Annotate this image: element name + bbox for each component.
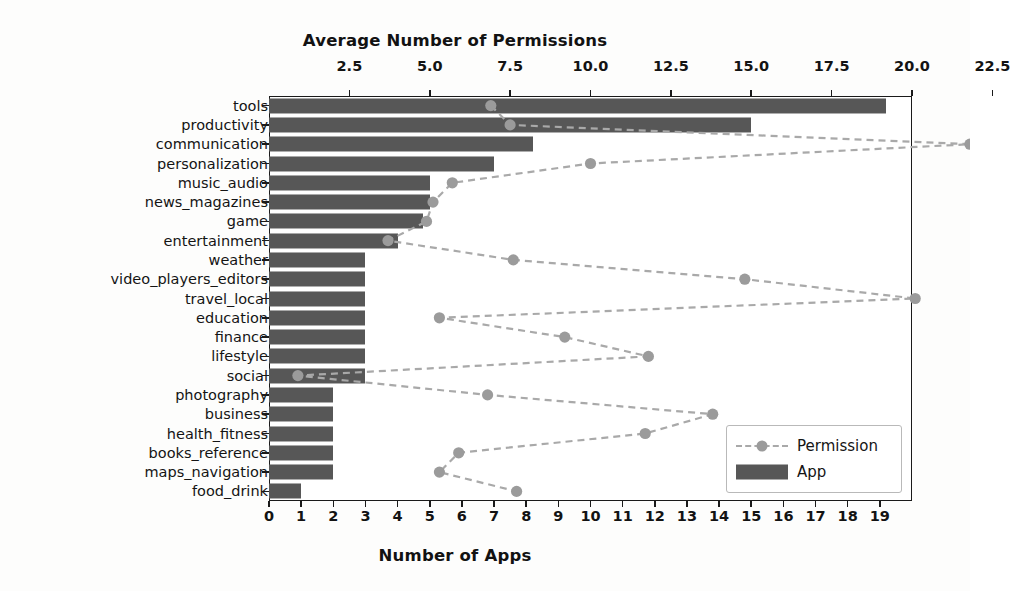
bar-productivity [269,117,751,132]
tick-mark-bottom [429,501,431,507]
tick-mark-top [911,90,913,96]
tick-label-bottom: 6 [457,508,467,524]
tick-label-top: 12.5 [653,58,689,74]
tick-mark-top [509,90,511,96]
tick-mark-left [262,375,269,377]
tick-label-bottom: 14 [709,508,729,524]
bar-books_reference [269,445,333,460]
category-label: travel_local [185,291,268,307]
tick-mark-bottom [590,501,592,507]
legend-label-app: App [797,463,826,481]
tick-label-top: 7.5 [497,58,523,74]
tick-label-bottom: 5 [425,508,435,524]
bar-personalization [269,156,494,171]
category-label: photography [175,387,268,403]
tick-label-bottom: 12 [645,508,665,524]
category-label: education [196,310,268,326]
category-label: entertainment [164,233,268,249]
bar-education [269,310,365,325]
tick-mark-left [262,124,269,126]
chart-legend: Permission App [726,425,902,493]
tick-mark-bottom [622,501,624,507]
tick-mark-bottom [493,501,495,507]
tick-mark-bottom [333,501,335,507]
tick-label-top: 20.0 [894,58,930,74]
tick-mark-top [429,90,431,96]
bar-social [269,368,365,383]
bar-tools [269,98,886,113]
tick-label-top: 17.5 [814,58,850,74]
category-label: news_magazines [145,194,268,210]
tick-label-bottom: 7 [489,508,499,524]
category-label: books_reference [149,445,268,461]
bar-maps_navigation [269,465,333,480]
tick-mark-bottom [847,501,849,507]
tick-label-bottom: 16 [773,508,793,524]
tick-mark-bottom [397,501,399,507]
tick-mark-left [262,413,269,415]
category-label: personalization [157,156,268,172]
tick-mark-left [262,298,269,300]
bar-music_audio [269,175,430,190]
tick-mark-bottom [654,501,656,507]
category-label: lifestyle [211,348,268,364]
tick-mark-bottom [268,501,270,507]
tick-mark-top [831,90,833,96]
tick-label-bottom: 8 [521,508,531,524]
bar-weather [269,252,365,267]
tick-mark-left [262,259,269,261]
tick-mark-left [262,433,269,435]
tick-mark-left [262,394,269,396]
legend-label-permission: Permission [797,437,878,455]
tick-mark-left [262,143,269,145]
tick-mark-top [349,90,351,96]
category-label: weather [209,252,268,268]
tick-mark-bottom [718,501,720,507]
bar-health_fitness [269,426,333,441]
category-label: music_audio [178,175,268,191]
bar-lifestyle [269,349,365,364]
tick-label-bottom: 3 [360,508,370,524]
tick-mark-left [262,336,269,338]
tick-mark-top [670,90,672,96]
tick-mark-left [262,278,269,280]
tick-label-bottom: 11 [613,508,633,524]
category-label: finance [215,329,268,345]
bar-food_drink [269,484,301,499]
tick-label-bottom: 9 [553,508,563,524]
tick-mark-left [262,221,269,223]
tick-mark-left [262,105,269,107]
tick-label-bottom: 15 [741,508,761,524]
bottom-axis-title: Number of Apps [0,546,970,565]
permission-marker-communication [964,139,970,150]
tick-label-top: 22.5 [974,58,1010,74]
tick-label-bottom: 13 [677,508,697,524]
category-label: business [205,406,268,422]
bar-communication [269,137,533,152]
legend-item-app: App [736,459,892,485]
tick-label-bottom: 18 [838,508,858,524]
app-bar-swatch [736,463,788,481]
tick-label-top: 15.0 [733,58,769,74]
tick-mark-bottom [783,501,785,507]
top-axis-title: Average Number of Permissions [0,31,970,50]
tick-label-bottom: 17 [805,508,825,524]
tick-label-bottom: 1 [296,508,306,524]
bar-business [269,407,333,422]
category-label: health_fitness [167,426,268,442]
tick-label-top: 5.0 [417,58,443,74]
tick-mark-left [262,182,269,184]
tick-mark-bottom [686,501,688,507]
bar-video_players_editors [269,272,365,287]
tick-mark-left [262,240,269,242]
tick-mark-bottom [300,501,302,507]
tick-mark-bottom [461,501,463,507]
bar-finance [269,330,365,345]
tick-mark-left [262,471,269,473]
tick-mark-bottom [365,501,367,507]
tick-label-bottom: 0 [264,508,274,524]
tick-mark-left [262,317,269,319]
legend-item-permission: Permission [736,433,892,459]
category-label: food_drink [192,483,268,499]
